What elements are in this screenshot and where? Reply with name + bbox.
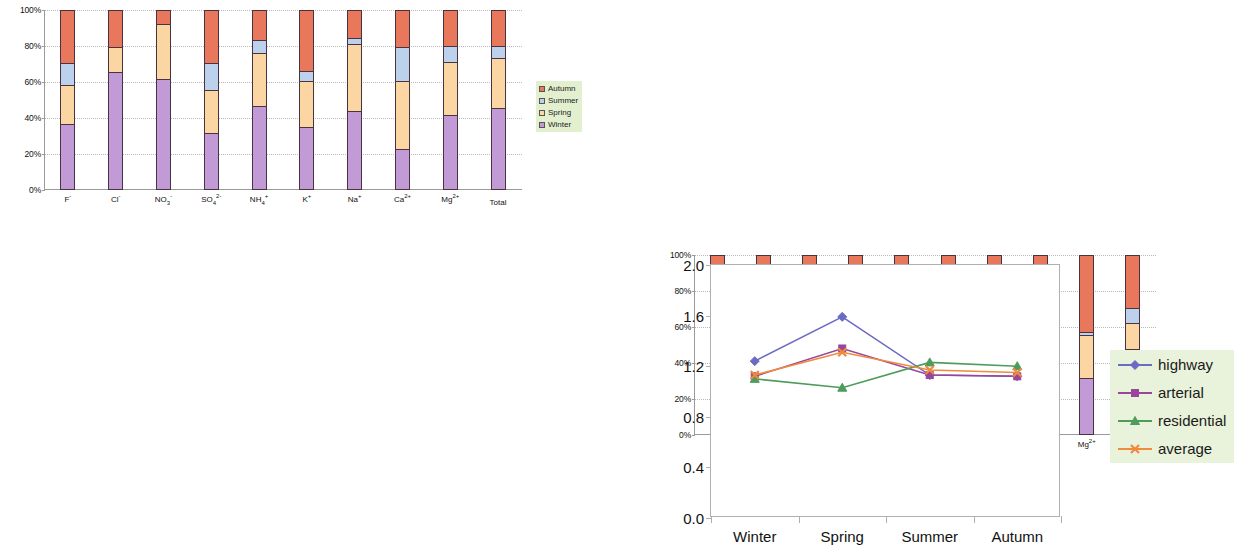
bar-segment-winter[interactable] (205, 134, 218, 189)
data-point-marker-diamond[interactable] (1131, 360, 1140, 369)
bar-segment-summer[interactable] (300, 72, 313, 83)
bar-segment-winter[interactable] (157, 80, 170, 189)
chart-top-left: 0%20%40%60%80%100% F-Cl-NO3-SO42-NH4+K+N… (0, 0, 627, 245)
x-axis-tick-mark (1061, 516, 1062, 523)
bar-segment-autumn[interactable] (61, 11, 74, 64)
bar-segment-autumn[interactable] (109, 11, 122, 48)
bar-segment-summer[interactable] (61, 64, 74, 85)
stacked-bar[interactable] (443, 10, 458, 190)
bar-segment-summer[interactable] (253, 41, 266, 53)
bar-segment-autumn[interactable] (157, 11, 170, 25)
bar-segment-autumn[interactable] (253, 11, 266, 41)
stacked-bar[interactable] (108, 10, 123, 190)
plot-area-bottom-right: 0.00.40.81.21.62.0WinterSpringSummerAutu… (710, 264, 1060, 517)
legend-marker-icon-diamond (1118, 358, 1152, 372)
bar-segment-spring[interactable] (205, 91, 218, 134)
bar-segment-spring[interactable] (348, 45, 361, 113)
bar-segment-spring[interactable] (253, 54, 266, 107)
y-axis-tick-label: 80% (25, 41, 41, 51)
bar-segment-winter[interactable] (348, 112, 361, 189)
stacked-bar[interactable] (299, 10, 314, 190)
y-axis-tick-mark (706, 467, 711, 468)
y-axis-tick-label: 1.6 (683, 307, 704, 324)
bars-top-left: F-Cl-NO3-SO42-NH4+K+Na+Ca2+Mg2+Total (44, 10, 522, 190)
bar-segment-spring[interactable] (492, 59, 505, 109)
legend-item-winter[interactable]: Winter (539, 120, 578, 129)
legend-item-arterial[interactable]: arterial (1118, 384, 1226, 401)
y-axis-tick-label: 1.2 (683, 358, 704, 375)
bar-group: Total (474, 10, 522, 190)
bar-segment-spring[interactable] (444, 63, 457, 116)
legend-item-autumn[interactable]: Autumn (539, 84, 578, 93)
bar-segment-autumn[interactable] (348, 11, 361, 39)
stacked-bar[interactable] (395, 10, 410, 190)
chart-bottom-right: 0.00.40.81.21.62.0WinterSpringSummerAutu… (650, 250, 1254, 548)
stacked-bar[interactable] (60, 10, 75, 190)
x-axis-tick-label: Winter (733, 528, 776, 545)
bar-segment-spring[interactable] (300, 82, 313, 128)
y-axis-tick-label: 0.4 (683, 459, 704, 476)
bar-segment-autumn[interactable] (444, 11, 457, 47)
x-axis-tick-label: K+ (302, 195, 311, 204)
bar-segment-summer[interactable] (492, 47, 505, 59)
x-axis-tick-label: SO42- (201, 195, 221, 204)
bar-segment-winter[interactable] (396, 150, 409, 189)
legend-item-residential[interactable]: residential (1118, 412, 1226, 429)
y-axis-tick-label: 0.8 (683, 408, 704, 425)
legend-swatch-icon (539, 122, 545, 128)
stacked-bar[interactable] (347, 10, 362, 190)
x-axis-tick-mark (711, 516, 712, 523)
stacked-bar[interactable] (252, 10, 267, 190)
bar-segment-summer[interactable] (396, 48, 409, 82)
x-axis-tick-label: Summer (901, 528, 958, 545)
legend-swatch-icon (539, 110, 545, 116)
bar-segment-spring[interactable] (109, 48, 122, 73)
bar-segment-spring[interactable] (396, 82, 409, 150)
bar-segment-summer[interactable] (444, 47, 457, 63)
bar-segment-winter[interactable] (444, 116, 457, 189)
bar-group: NH4+ (235, 10, 283, 190)
x-axis-tick-label: NH4+ (250, 195, 268, 204)
y-axis-tick-label: 0% (29, 185, 41, 195)
y-axis-tick-mark (706, 366, 711, 367)
bar-segment-autumn[interactable] (492, 11, 505, 47)
legend-marker-icon-square (1118, 386, 1152, 400)
legend-item-label: Autumn (548, 84, 576, 93)
legend-item-label: arterial (1158, 384, 1204, 401)
x-axis-tick-label: F- (64, 195, 71, 204)
bar-segment-winter[interactable] (253, 107, 266, 189)
stacked-bar[interactable] (156, 10, 171, 190)
x-axis-tick-label: Na+ (348, 195, 362, 204)
x-axis-tick-label: Total (490, 198, 507, 207)
bar-segment-spring[interactable] (61, 86, 74, 125)
stacked-bar[interactable] (204, 10, 219, 190)
x-axis-tick-label: Spring (821, 528, 864, 545)
legend-item-label: Winter (548, 120, 571, 129)
bar-segment-spring[interactable] (157, 25, 170, 80)
legend-item-highway[interactable]: highway (1118, 356, 1226, 373)
bar-group: Mg2+ (426, 10, 474, 190)
data-point-highway-Winter[interactable] (750, 357, 759, 366)
x-axis-tick-mark (886, 516, 887, 523)
bar-group: Na+ (331, 10, 379, 190)
y-axis-tick-label: 60% (25, 77, 41, 87)
bar-segment-winter[interactable] (109, 73, 122, 189)
y-axis-tick-label: 100% (20, 5, 41, 15)
bar-segment-winter[interactable] (492, 109, 505, 189)
x-axis-tick-label: Cl- (111, 195, 121, 204)
bar-segment-autumn[interactable] (205, 11, 218, 64)
bar-segment-winter[interactable] (61, 125, 74, 189)
legend-marker-icon-cross (1118, 442, 1152, 456)
legend-item-average[interactable]: average (1118, 440, 1226, 457)
legend-item-spring[interactable]: Spring (539, 108, 578, 117)
bar-segment-summer[interactable] (205, 64, 218, 91)
y-axis-tick-label: 0.0 (683, 510, 704, 527)
data-point-highway-Spring[interactable] (838, 312, 847, 321)
data-point-marker-square[interactable] (1132, 389, 1139, 396)
stacked-bar[interactable] (491, 10, 506, 190)
bar-segment-autumn[interactable] (396, 11, 409, 48)
bar-segment-autumn[interactable] (300, 11, 313, 72)
line-series-svg (711, 265, 1061, 518)
bar-segment-winter[interactable] (300, 128, 313, 189)
legend-item-summer[interactable]: Summer (539, 96, 578, 105)
